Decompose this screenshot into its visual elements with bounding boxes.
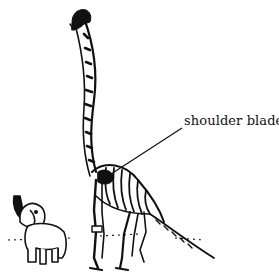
illustration-figure: shoulder blade (0, 0, 279, 276)
elephant (13, 196, 66, 264)
dinosaur-skeleton (70, 10, 214, 270)
leader-line (108, 128, 182, 176)
drawing (0, 0, 279, 276)
label-shoulder-blade: shoulder blade (184, 113, 279, 128)
